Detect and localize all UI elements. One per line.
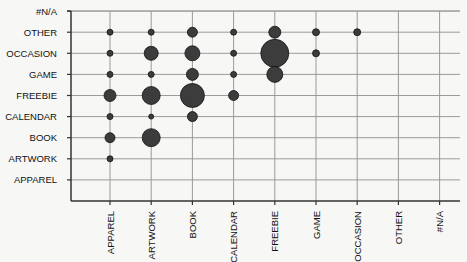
x-axis-label: APPAREL [105,211,116,254]
bubble-point [313,50,320,57]
y-axis-label: #N/A [36,6,58,17]
axes [67,11,460,205]
x-axis-label: OCCASION [352,211,363,262]
y-axis-label: ARTWORK [9,153,58,164]
bubble-point [142,87,160,105]
bubble-point [231,50,237,56]
y-axis-label: GAME [29,69,57,80]
bubble-point [261,39,289,67]
x-axis-label: #N/A [434,210,445,232]
bubble-point [231,29,237,35]
y-axis-labels: APPARELARTWORKBOOKCALENDARFREEBIEGAMEOCC… [5,6,57,186]
bubble-point [149,114,154,119]
bubble-point [229,91,239,101]
bubble-point [148,71,154,77]
x-axis-label: FREEBIE [269,211,280,252]
bubble-point [180,84,204,108]
bubble-point [144,46,158,60]
bubble-point [354,29,361,36]
y-axis-label: FREEBIE [16,90,57,101]
bubble-point [105,133,115,143]
y-axis-label: BOOK [30,132,58,143]
bubble-point [107,71,113,77]
y-axis-label: APPAREL [14,174,57,185]
bubble-point [148,29,154,35]
bubble-point [186,68,198,80]
bubble-point [107,50,113,56]
x-axis-label: BOOK [187,210,198,238]
bubble-point [231,71,237,77]
gridlines [71,11,460,201]
bubble-point [185,46,200,61]
bubbles [104,26,361,162]
x-axis-label: CALENDAR [228,211,239,262]
bubble-point [267,66,283,82]
bubble-point [104,90,116,102]
bubble-point [107,156,113,162]
bubble-point [187,27,197,37]
x-axis-label: ARTWORK [146,210,157,259]
bubble-chart: APPARELARTWORKBOOKCALENDARFREEBIEGAMEOCC… [0,0,467,262]
y-axis-label: OTHER [24,27,57,38]
x-axis-label: OTHER [393,211,404,244]
bubble-point [187,112,197,122]
bubble-point [107,29,113,35]
bubble-point [269,26,281,38]
bubble-point [313,29,320,36]
bubble-point [142,129,160,147]
bubble-point [107,114,113,120]
x-axis-labels: APPARELARTWORKBOOKCALENDARFREEBIEGAMEOCC… [105,210,446,262]
y-axis-label: CALENDAR [5,111,57,122]
x-axis-label: GAME [311,211,322,239]
y-axis-label: OCCASION [6,48,57,59]
